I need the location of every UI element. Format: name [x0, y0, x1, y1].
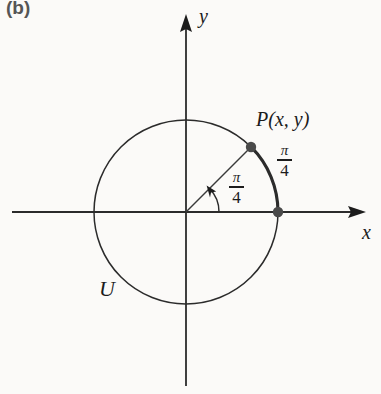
central-angle-numerator: π — [232, 170, 242, 186]
circle-name-label: U — [99, 278, 115, 300]
initial-point-marker — [273, 207, 283, 217]
arc-length-label: π 4 — [277, 143, 292, 179]
y-axis-label: y — [199, 6, 208, 26]
figure-part-label: (b) — [6, 0, 30, 17]
x-axis-label: x — [362, 222, 371, 242]
central-angle-label: π 4 — [229, 170, 244, 206]
point-p-label: P(x, y) — [256, 109, 309, 129]
central-angle-denominator: 4 — [232, 188, 241, 206]
arc-length-denominator: 4 — [280, 161, 289, 179]
arc-length-numerator: π — [280, 143, 290, 159]
highlighted-arc — [251, 147, 278, 212]
point-p-marker — [246, 142, 256, 152]
unit-circle-figure: (b) y x U P(x, y) π 4 π 4 — [0, 0, 381, 394]
figure-canvas — [0, 0, 381, 394]
